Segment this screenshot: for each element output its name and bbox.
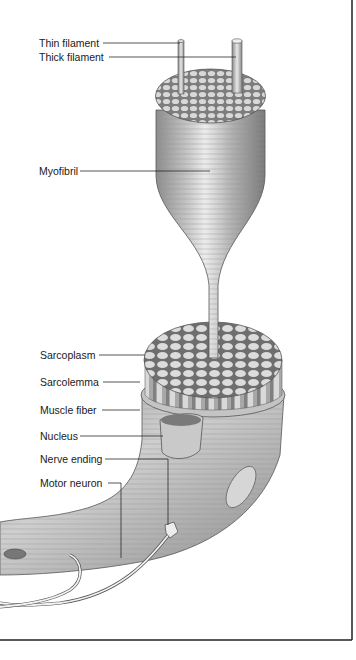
label-thick-filament: Thick filament [39,51,104,63]
label-muscle-fiber: Muscle fiber [40,404,97,416]
label-nucleus: Nucleus [40,430,78,442]
thick-filament-rod [232,41,242,93]
label-sarcoplasm: Sarcoplasm [40,349,95,361]
myofibril-shape [156,69,266,358]
thin-filament-rod [178,41,184,94]
label-myofibril: Myofibril [39,165,78,177]
figure-frame: Thin filament Thick filament Myofibril S… [0,0,356,660]
label-nerve-ending: Nerve ending [40,453,102,465]
label-thin-filament: Thin filament [39,37,99,49]
label-sarcolemma: Sarcolemma [40,376,99,388]
label-motor-neuron: Motor neuron [40,477,102,489]
muscle-fiber-illustration [0,0,356,660]
